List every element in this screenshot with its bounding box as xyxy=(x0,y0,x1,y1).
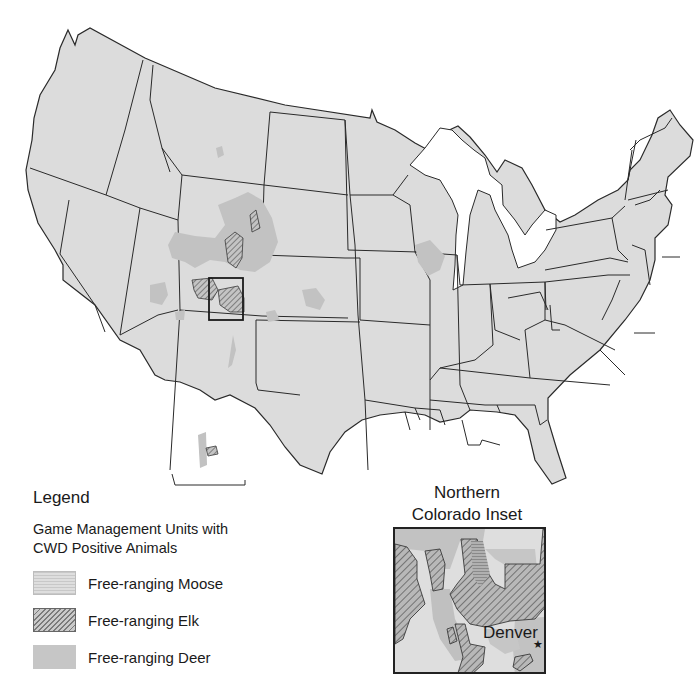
legend-item-deer: Free-ranging Deer xyxy=(33,642,333,672)
star-icon: ★ xyxy=(533,639,543,650)
moose-swatch xyxy=(33,571,76,595)
deer-swatch xyxy=(33,645,76,669)
legend-subtitle-line2: CWD Positive Animals xyxy=(33,539,333,558)
elk-swatch xyxy=(33,608,76,632)
inset-title: Northern Colorado Inset xyxy=(392,482,542,526)
inset-title-line2: Colorado Inset xyxy=(392,504,542,526)
legend: Legend Game Management Units with CWD Po… xyxy=(33,488,333,679)
legend-item-moose: Free-ranging Moose xyxy=(33,568,333,598)
legend-subtitle: Game Management Units with CWD Positive … xyxy=(33,520,333,558)
inset-title-line1: Northern xyxy=(392,482,542,504)
us-land xyxy=(26,28,693,484)
legend-label: Free-ranging Deer xyxy=(88,649,211,666)
inset-map xyxy=(395,529,546,674)
legend-subtitle-line1: Game Management Units with xyxy=(33,520,333,539)
legend-label: Free-ranging Elk xyxy=(88,612,199,629)
city-label-denver: Denver xyxy=(483,623,538,643)
legend-item-elk: Free-ranging Elk xyxy=(33,605,333,635)
legend-label: Free-ranging Moose xyxy=(88,575,223,592)
legend-title: Legend xyxy=(33,488,333,508)
northern-colorado-inset: Denver ★ xyxy=(393,527,546,674)
